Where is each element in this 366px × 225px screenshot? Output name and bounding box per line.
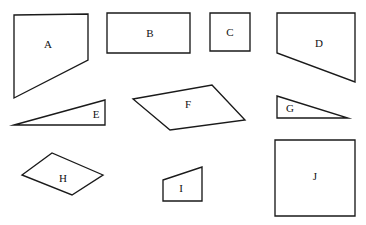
shape-label-i: I xyxy=(179,183,183,194)
shape-label-a: A xyxy=(44,39,52,50)
shape-label-f: F xyxy=(185,99,191,110)
shape-label-g: G xyxy=(286,103,294,114)
shape-a[interactable] xyxy=(14,14,88,98)
shape-label-j: J xyxy=(313,171,317,182)
shape-label-d: D xyxy=(315,38,323,49)
shape-e[interactable] xyxy=(14,100,105,125)
shape-label-c: C xyxy=(226,27,233,38)
shape-label-h: H xyxy=(59,173,67,184)
shapes-worksheet: A B C D E F G H I J xyxy=(0,0,366,225)
shape-label-e: E xyxy=(93,109,100,120)
shape-label-b: B xyxy=(146,28,153,39)
